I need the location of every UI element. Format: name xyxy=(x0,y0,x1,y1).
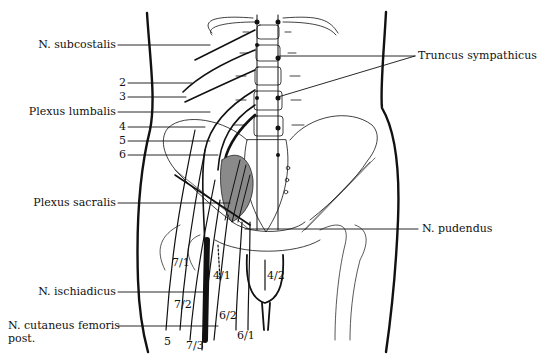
label-n-cutaneus-femoris: N. cutaneus femoris xyxy=(8,320,120,332)
label-3: 3 xyxy=(119,91,126,103)
label-2: 2 xyxy=(119,77,126,89)
label-n-subcostalis: N. subcostalis xyxy=(38,39,116,51)
label-6-2: 6/2 xyxy=(219,310,237,322)
leader-lines xyxy=(118,45,418,326)
body-outline-right xyxy=(381,12,398,352)
label-plexus-lumbalis: Plexus lumbalis xyxy=(29,106,116,118)
label-5: 5 xyxy=(119,135,126,147)
label-6: 6 xyxy=(119,149,126,161)
label-4: 4 xyxy=(119,121,126,133)
label-4-1: 4/1 xyxy=(213,270,231,282)
label-7-1: 7/1 xyxy=(172,257,190,269)
label-truncus-sympathicus: Truncus sympathicus xyxy=(418,50,537,62)
sacral-plexus xyxy=(220,155,253,222)
label-6-1: 6/1 xyxy=(237,330,255,342)
sciatic-nerve xyxy=(205,240,207,340)
label-plexus-sacralis: Plexus sacralis xyxy=(33,197,116,209)
label-n-pudendus: N. pudendus xyxy=(422,223,492,235)
label-post: post. xyxy=(8,333,35,345)
label-4-2: 4/2 xyxy=(267,270,285,282)
label-5-bottom: 5 xyxy=(164,336,171,348)
label-7-3: 7/3 xyxy=(186,340,204,352)
label-n-ischiadicus: N. ischiadicus xyxy=(38,286,116,298)
vertebrae xyxy=(234,25,304,136)
body-outline-left xyxy=(138,13,153,352)
label-7-2: 7/2 xyxy=(174,299,192,311)
